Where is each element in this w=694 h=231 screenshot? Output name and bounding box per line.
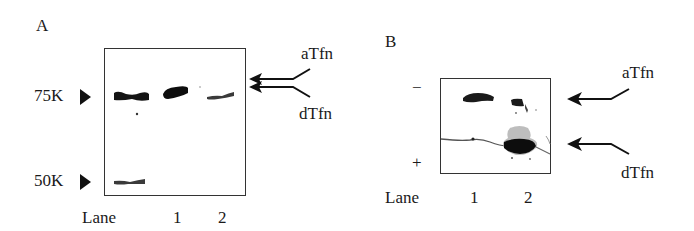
arrow-dtfn-b-icon bbox=[567, 137, 629, 154]
label-atfn-b: aTfn bbox=[622, 63, 654, 83]
label-dtfn-b: dTfn bbox=[621, 163, 654, 183]
arrow-atfn-b-icon bbox=[567, 89, 629, 106]
arrows-panel-b bbox=[0, 0, 694, 231]
